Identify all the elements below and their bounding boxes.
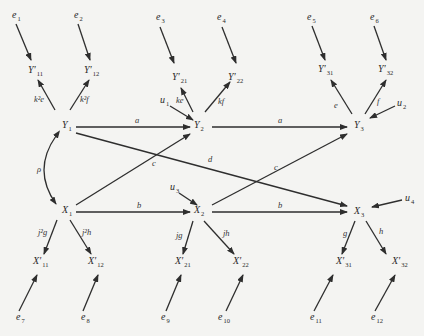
label-b2: b [278,200,282,210]
label-g: g [343,228,347,238]
node-u3: u3 [170,181,179,194]
node-yp12: Y′12 [84,64,99,77]
label-jg: jg [175,230,183,240]
edge-u2-y3 [370,106,395,118]
edge-e3-yp21 [160,27,174,63]
label-h: h [379,226,383,236]
node-e9: e9 [161,311,170,324]
edge-u4-x3 [372,200,402,207]
edge-e5-yp31 [312,26,325,60]
edge-y1-x3 [76,133,347,206]
edge-y1-x1-correlation [44,136,56,204]
label-j2h: j²h [81,227,91,237]
edge-e6-yp32 [374,26,386,60]
node-xp31: X′31 [335,255,352,268]
label-b1: b [137,200,141,210]
node-yp32: Y′32 [378,63,393,76]
edge-x2-y3 [212,134,347,205]
edge-x1-xp11 [44,220,57,254]
edge-x2-xp21 [183,221,193,254]
edge-u1-y2 [170,106,193,120]
label-f: f [377,96,381,106]
node-yp11: Y′11 [28,64,43,77]
node-e11: e11 [310,311,322,324]
edge-e10-xp22 [226,275,243,311]
label-kf: kf [218,96,226,106]
edge-x1-y2 [76,134,190,205]
edge-e8-xp12 [83,275,98,311]
label-k2e: k²e [34,94,44,104]
label-d: d [208,154,213,164]
node-y1: Y1 [62,119,72,132]
node-y2: Y2 [194,119,204,132]
node-e2: e2 [74,9,83,22]
node-xp32: X′32 [391,255,408,268]
edge-x1-xp12 [70,220,91,254]
label-c2: c [274,162,278,172]
node-y3: Y3 [354,119,364,132]
node-xp11: X′11 [32,255,49,268]
node-x1: X1 [61,204,72,217]
node-u1: u1 [160,94,169,107]
label-j2g: j²g [37,227,47,237]
node-e12: e12 [371,311,383,324]
edge-e9-xp21 [166,275,181,311]
label-a2: a [278,115,282,125]
label-rho: ρ [36,164,41,174]
edge-e2-yp12 [78,24,90,60]
label-e: e [334,100,338,110]
label-c1: c [152,158,156,168]
node-yp21: Y′21 [172,71,187,84]
label-a1: a [135,115,139,125]
node-xp22: X′22 [232,255,249,268]
edge-e1-yp11 [16,24,31,60]
label-k2f: k²f [80,94,90,104]
node-layer: e1e2e3e4e5e6Y′11Y′12Y′21Y′22Y′31Y′32Y1Y2… [12,9,415,324]
label-jh: jh [222,228,230,238]
node-e1: e1 [12,9,21,22]
node-xp12: X′12 [87,255,104,268]
node-x3: X3 [353,205,364,218]
node-yp31: Y′31 [318,63,333,76]
edge-e4-yp22 [222,27,236,63]
node-e4: e4 [217,11,226,24]
edge-e12-xp32 [375,275,395,311]
node-x2: X2 [193,204,204,217]
node-u2: u2 [397,97,406,110]
node-e10: e10 [218,311,230,324]
node-e7: e7 [16,311,25,324]
edge-y3-yp32 [365,80,386,114]
edge-e7-xp11 [19,275,37,311]
edge-e11-xp31 [314,275,333,311]
node-yp22: Y′22 [228,71,243,84]
node-e3: e3 [156,11,165,24]
node-u4: u4 [405,192,415,205]
label-ke: ke [176,95,184,105]
node-e5: e5 [307,11,316,24]
path-diagram: e1e2e3e4e5e6Y′11Y′12Y′21Y′22Y′31Y′32Y1Y2… [0,0,424,336]
node-xp21: X′21 [174,255,191,268]
node-e6: e6 [370,11,379,24]
node-e8: e8 [81,311,90,324]
